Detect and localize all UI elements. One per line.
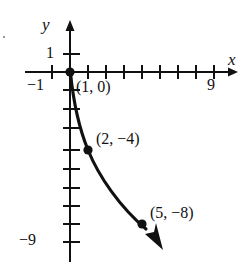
y-axis-label: y — [42, 16, 50, 33]
y-tick-label-neg9: −9 — [19, 232, 36, 248]
y-axis-arrowhead — [66, 20, 75, 31]
y-axis — [66, 20, 75, 262]
plotted-curve — [71, 73, 164, 250]
curve-end-arrowhead — [145, 223, 163, 250]
x-tick-label-neg1: −1 — [27, 77, 44, 93]
point-2-neg4 — [83, 145, 92, 154]
y-tick-label-1: 1 — [46, 45, 54, 61]
x-tick-label-9: 9 — [207, 77, 215, 93]
annotation-point-1-0: (1, 0) — [76, 79, 111, 95]
point-1-0 — [65, 67, 74, 76]
annotation-point-2-neg4: (2, −4) — [96, 131, 140, 147]
annotation-point-5-neg8: (5, −8) — [150, 205, 194, 221]
point-5-neg8 — [137, 219, 146, 228]
graph-figure: y x 1 −1 9 −9 (1, 0) (2, −4) (5, −8) — [0, 0, 249, 264]
x-axis-label: x — [228, 51, 236, 68]
